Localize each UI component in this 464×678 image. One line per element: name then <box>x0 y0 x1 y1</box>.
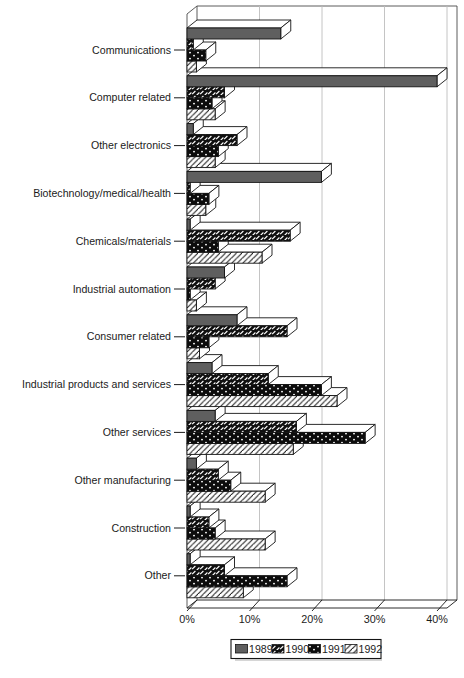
x-tick-label-40%: 40% <box>426 613 448 625</box>
x-tick-label-20%: 20% <box>301 613 323 625</box>
legend-item-1989: 1989 <box>236 643 273 655</box>
category-label-industrial-products-and-services: Industrial products and services <box>22 378 171 390</box>
legend-swatch-1990 <box>272 645 284 654</box>
category-label-construction: Construction <box>112 522 172 534</box>
bar-1989-communications <box>187 20 291 39</box>
x-axis-floor <box>187 600 457 608</box>
x-tick-label-0%: 0% <box>179 613 195 625</box>
x-tick-label-10%: 10% <box>239 613 261 625</box>
bar-1990-chemicals-materials <box>187 222 300 241</box>
legend-swatch-1989 <box>236 645 248 654</box>
category-label-other-electronics: Other electronics <box>91 139 171 151</box>
legend-item-1992: 1992 <box>345 643 382 655</box>
category-label-chemicals-materials: Chemicals/materials <box>76 235 171 247</box>
chart-page: 0%10%20%30%40%CommunicationsComputer rel… <box>0 0 464 678</box>
legend-item-1990: 1990 <box>272 643 309 655</box>
legend-label-1992: 1992 <box>359 643 383 655</box>
category-label-industrial-automation: Industrial automation <box>73 283 171 295</box>
legend-swatch-1992 <box>345 645 357 654</box>
category-label-other: Other <box>145 569 172 581</box>
category-label-computer-related: Computer related <box>89 91 171 103</box>
category-label-other-services: Other services <box>103 426 171 438</box>
legend-label-1990: 1990 <box>286 643 310 655</box>
legend-label-1989: 1989 <box>249 643 273 655</box>
category-label-consumer-related: Consumer related <box>87 330 171 342</box>
category-label-other-manufacturing: Other manufacturing <box>74 474 171 486</box>
bar-1989-computer-related <box>187 68 447 87</box>
bars-layer <box>187 20 447 598</box>
legend: 1989199019911992 <box>231 640 382 661</box>
category-label-biotechnology-medical-health: Biotechnology/medical/health <box>33 187 171 199</box>
category-label-communications: Communications <box>92 44 171 56</box>
x-tick-label-30%: 30% <box>364 613 386 625</box>
legend-swatch-1991 <box>309 645 321 654</box>
legend-label-1991: 1991 <box>322 643 346 655</box>
legend-item-1991: 1991 <box>309 643 346 655</box>
grouped-bar-chart: 0%10%20%30%40%CommunicationsComputer rel… <box>0 0 464 678</box>
